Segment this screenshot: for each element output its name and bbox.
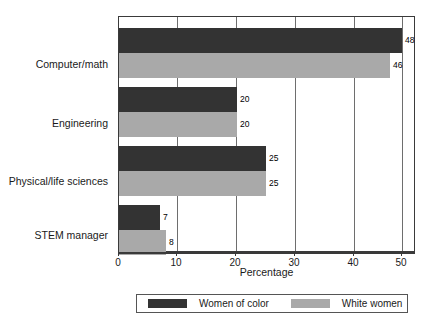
plot-area: 48 46 20 20 25 25 7 8 <box>118 16 415 252</box>
value-label-physical-life-sciences-white-women: 25 <box>269 179 278 188</box>
category-axis-labels: Computer/math Engineering Physical/life … <box>0 16 113 252</box>
legend-swatch-white-women <box>291 299 330 308</box>
value-label-stem-manager-women-of-color: 7 <box>163 213 168 222</box>
category-label-physical-life-sciences: Physical/life sciences <box>9 176 108 187</box>
value-label-engineering-women-of-color: 20 <box>240 95 249 104</box>
value-label-physical-life-sciences-women-of-color: 25 <box>269 154 278 163</box>
gridline-50 <box>402 17 403 251</box>
category-label-stem-manager: STEM manager <box>34 230 108 241</box>
bar-engineering-women-of-color <box>119 87 237 112</box>
bar-engineering-white-women <box>119 112 237 137</box>
x-axis-line <box>118 252 415 254</box>
x-tick-10 <box>176 252 177 256</box>
value-label-computer-math-white-women: 46 <box>393 61 402 70</box>
x-tick-30 <box>294 252 295 256</box>
legend-entry-white-women: White women <box>291 295 403 312</box>
bar-computer-math-women-of-color <box>119 28 402 53</box>
legend-swatch-women-of-color <box>148 299 187 308</box>
category-label-computer-math: Computer/math <box>36 59 108 70</box>
x-tick-20 <box>235 252 236 256</box>
legend-label-white-women: White women <box>342 298 403 309</box>
value-label-computer-math-women-of-color: 48 <box>405 36 414 45</box>
bar-chart-figure: Computer/math Engineering Physical/life … <box>0 0 428 323</box>
x-tick-0 <box>118 252 119 256</box>
x-tick-50 <box>401 252 402 256</box>
x-tick-40 <box>353 252 354 256</box>
bar-stem-manager-women-of-color <box>119 205 160 230</box>
value-label-engineering-white-women: 20 <box>240 120 249 129</box>
value-label-stem-manager-white-women: 8 <box>169 238 174 247</box>
legend-entry-women-of-color: Women of color <box>148 295 269 312</box>
x-axis-title: Percentage <box>118 266 415 278</box>
bar-physical-life-sciences-white-women <box>119 171 266 196</box>
bar-computer-math-white-women <box>119 53 390 78</box>
category-label-engineering: Engineering <box>52 118 108 129</box>
bar-physical-life-sciences-women-of-color <box>119 146 266 171</box>
chart-legend: Women of color White women <box>136 294 408 313</box>
legend-label-women-of-color: Women of color <box>199 298 269 309</box>
